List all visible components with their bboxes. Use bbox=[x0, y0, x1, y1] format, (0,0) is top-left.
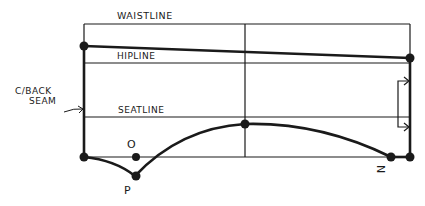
base-right-point bbox=[406, 153, 415, 162]
right-bracket bbox=[398, 81, 408, 127]
seat-peak-point bbox=[241, 120, 250, 129]
point-n-label: N bbox=[374, 165, 387, 174]
point-p-label: P bbox=[124, 184, 131, 197]
seatline-label: SEATLINE bbox=[118, 105, 164, 115]
side-waist-point bbox=[406, 54, 415, 63]
point-p bbox=[132, 172, 141, 181]
back-seam-label-line1: C/BACK bbox=[15, 86, 52, 96]
point-n bbox=[387, 153, 396, 162]
hipline-label: HIPLINE bbox=[117, 51, 155, 61]
frame bbox=[64, 24, 410, 176]
base-left-point bbox=[80, 153, 89, 162]
point-o bbox=[132, 153, 140, 161]
pattern-diagram: WAISTLINE HIPLINE SEATLINE C/BACK SEAM O… bbox=[0, 0, 425, 206]
waistline-label: WAISTLINE bbox=[117, 10, 173, 21]
back-seam-label-line2: SEAM bbox=[29, 96, 56, 106]
waist-point bbox=[80, 42, 89, 51]
point-o-label: O bbox=[127, 138, 136, 151]
arrow-head-icon bbox=[78, 106, 83, 113]
